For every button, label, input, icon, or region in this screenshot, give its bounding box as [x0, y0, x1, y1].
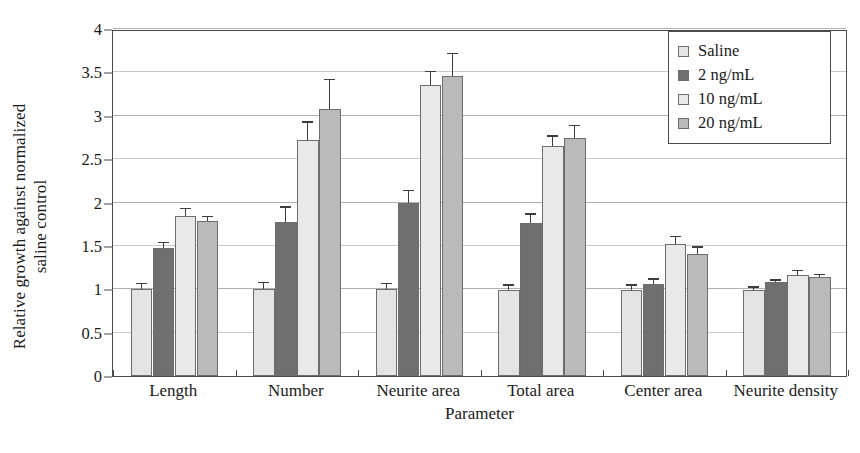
bar	[253, 289, 275, 376]
y-tick-label: 0	[56, 367, 102, 387]
y-tick-label: 2.5	[56, 150, 102, 170]
bar	[621, 290, 643, 376]
bar	[520, 223, 542, 376]
error-bar	[631, 286, 632, 290]
error-bar	[141, 284, 142, 289]
error-bar	[207, 217, 208, 220]
error-bar	[508, 286, 509, 290]
error-bar	[819, 275, 820, 277]
gridline	[113, 288, 846, 289]
bar	[687, 254, 709, 376]
legend-item: Saline	[678, 39, 821, 63]
y-tick-label: 1	[56, 280, 102, 300]
bar	[131, 289, 153, 376]
bar	[297, 140, 319, 376]
bar-chart-figure: Relative growth against normalized salin…	[0, 0, 860, 453]
y-tick-mark	[104, 116, 112, 117]
bar	[498, 290, 520, 376]
legend-item-label: Saline	[698, 43, 739, 60]
bar	[765, 282, 787, 376]
bar	[319, 109, 341, 376]
error-bar	[753, 288, 754, 291]
gridline	[113, 158, 846, 159]
error-bar-cap	[748, 286, 759, 287]
legend-item: 20 ng/mL	[678, 111, 821, 135]
error-bar	[675, 237, 676, 244]
error-bar	[386, 284, 387, 289]
bar	[665, 244, 687, 376]
y-tick-mark	[104, 30, 112, 31]
error-bar-cap	[136, 283, 147, 284]
error-bar	[307, 123, 308, 140]
x-tick-label: Center area	[624, 381, 702, 401]
legend-swatch-icon	[678, 46, 689, 57]
error-bar	[329, 80, 330, 109]
error-bar-cap	[770, 279, 781, 280]
y-tick-mark	[104, 246, 112, 247]
error-bar	[263, 283, 264, 289]
bar	[743, 290, 765, 376]
error-bar	[775, 281, 776, 283]
legend-item-label: 2 ng/mL	[698, 67, 754, 84]
gridline	[113, 245, 846, 246]
y-tick-label: 1.5	[56, 237, 102, 257]
error-bar	[185, 209, 186, 215]
error-bar-cap	[569, 125, 580, 126]
legend-item-label: 20 ng/mL	[698, 115, 763, 132]
error-bar	[574, 126, 575, 138]
error-bar-cap	[425, 71, 436, 72]
bar	[175, 216, 197, 376]
y-tick-mark	[104, 73, 112, 74]
legend-item-label: 10 ng/mL	[698, 91, 763, 108]
y-axis-title-line-2: saline control	[30, 104, 51, 350]
error-bar	[697, 248, 698, 254]
x-tick-mark	[358, 370, 359, 376]
bar	[376, 289, 398, 376]
gridline	[113, 28, 846, 29]
bar	[564, 138, 586, 376]
x-tick-mark	[848, 370, 849, 376]
y-tick-mark	[104, 290, 112, 291]
x-tick-mark	[113, 370, 114, 376]
bar	[275, 222, 297, 376]
bar	[643, 284, 665, 376]
error-bar-cap	[180, 208, 191, 209]
error-bar-cap	[158, 242, 169, 243]
y-tick-label: 2	[56, 194, 102, 214]
error-bar	[653, 280, 654, 284]
y-tick-mark	[104, 333, 112, 334]
y-tick-label: 3.5	[56, 63, 102, 83]
gridline	[113, 332, 846, 333]
x-tick-label: Total area	[507, 381, 574, 401]
x-axis-title: Parameter	[112, 404, 847, 424]
legend-swatch-icon	[678, 94, 689, 105]
gridline	[113, 202, 846, 203]
x-tick-mark	[236, 370, 237, 376]
error-bar-cap	[302, 121, 313, 122]
bar	[398, 203, 420, 377]
bar	[153, 248, 175, 376]
error-bar-cap	[626, 284, 637, 285]
error-bar-cap	[814, 274, 825, 275]
y-tick-label: 4	[56, 20, 102, 40]
x-tick-label: Neurite area	[376, 381, 460, 401]
error-bar	[530, 215, 531, 224]
y-axis-title: Relative growth against normalized salin…	[0, 0, 60, 453]
error-bar-cap	[381, 283, 392, 284]
error-bar-cap	[692, 246, 703, 247]
error-bar-cap	[525, 213, 536, 214]
error-bar	[430, 72, 431, 84]
error-bar	[408, 191, 409, 202]
error-bar-cap	[503, 284, 514, 285]
bar	[809, 277, 831, 376]
error-bar	[285, 208, 286, 222]
error-bar-cap	[447, 53, 458, 54]
x-tick-label: Number	[268, 381, 324, 401]
error-bar-cap	[547, 135, 558, 136]
x-tick-label: Length	[149, 381, 197, 401]
error-bar-cap	[280, 206, 291, 207]
error-bar	[163, 243, 164, 248]
bar	[542, 146, 564, 376]
error-bar-cap	[324, 79, 335, 80]
legend-swatch-icon	[678, 70, 689, 81]
